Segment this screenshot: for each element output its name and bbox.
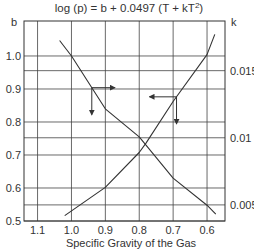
- chart: log (p) = b + 0.0497 (T + kT2) 1.11.00.9…: [0, 0, 254, 251]
- x-tick-label: 0.6: [199, 224, 214, 236]
- y-left-tick-label: 0.8: [6, 116, 21, 128]
- x-tick-label: 0.9: [98, 224, 113, 236]
- curve-k: [65, 34, 215, 215]
- y-left-tick-label: 1.0: [6, 50, 21, 62]
- x-tick-label: 1.1: [30, 224, 45, 236]
- curves: [60, 34, 216, 215]
- x-axis-label: Specific Gravity of the Gas: [66, 237, 197, 249]
- arrow-annotations: [92, 88, 177, 124]
- y-right-tick-label: 0.01: [230, 132, 251, 144]
- y-left-tick-label: 0.9: [6, 83, 21, 95]
- x-tick-label: 0.8: [132, 224, 147, 236]
- x-tick-label: 0.7: [165, 224, 180, 236]
- y-right-tick-label: 0.015: [230, 65, 254, 77]
- x-tick-label: 1.0: [64, 224, 79, 236]
- plot-frame: [24, 21, 225, 221]
- y-left-tick-label: 0.5: [6, 215, 21, 227]
- chart-title: log (p) = b + 0.0497 (T + kT2): [55, 1, 204, 14]
- tick-labels: 1.11.00.90.80.70.61.00.90.80.70.60.50.01…: [6, 50, 254, 236]
- y-right-tick-label: 0.005: [230, 199, 254, 211]
- y-left-axis-label: b: [11, 16, 17, 28]
- y-left-tick-label: 0.6: [6, 182, 21, 194]
- grid-lines: [24, 21, 225, 221]
- y-right-axis-label: k: [231, 16, 237, 28]
- y-left-tick-label: 0.7: [6, 149, 21, 161]
